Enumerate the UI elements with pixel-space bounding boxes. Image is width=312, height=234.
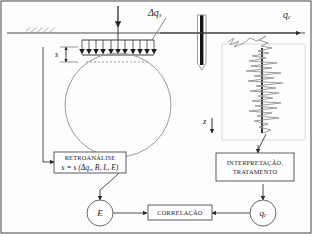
delta-q-leader bbox=[152, 18, 166, 40]
cpt-rod bbox=[200, 15, 203, 65]
distributed-load-arrows bbox=[79, 49, 157, 55]
diagram-canvas: Δqs qc s z RETROANÁLISE s = s (Δqs, B, L… bbox=[0, 0, 312, 234]
retroanalise-title: RETROANÁLISE bbox=[54, 154, 126, 162]
settlement-label: s bbox=[55, 50, 58, 59]
ground-surface bbox=[7, 28, 305, 34]
cpt-profile-chart bbox=[222, 36, 305, 140]
retroanalise-formula: s = s (Δqs, B, L, E) bbox=[54, 163, 126, 173]
depth-label: z bbox=[203, 117, 206, 126]
interpretacao-line1: INTERPRETAÇÃO, bbox=[216, 159, 294, 167]
cpt-resistance-trace bbox=[246, 36, 283, 133]
cone-resistance-node-label: qc bbox=[251, 208, 275, 219]
cpt-trace-top-tail bbox=[228, 36, 266, 47]
soil-hatching bbox=[26, 28, 56, 33]
modulus-node-label: E bbox=[88, 208, 112, 219]
correlacao-label: CORRELAÇÃO bbox=[148, 209, 212, 217]
interpretacao-line2: TRATAMENTO bbox=[216, 168, 294, 176]
cpt-rod-group bbox=[198, 15, 207, 70]
diagram-vector-layer bbox=[0, 0, 312, 234]
pressure-bulb bbox=[65, 53, 171, 157]
qc-axis-label: qc bbox=[283, 10, 291, 21]
interpretacao-box[interactable] bbox=[216, 153, 294, 181]
delta-q-label: Δqs bbox=[148, 8, 161, 19]
settlement-dimension bbox=[60, 47, 78, 62]
